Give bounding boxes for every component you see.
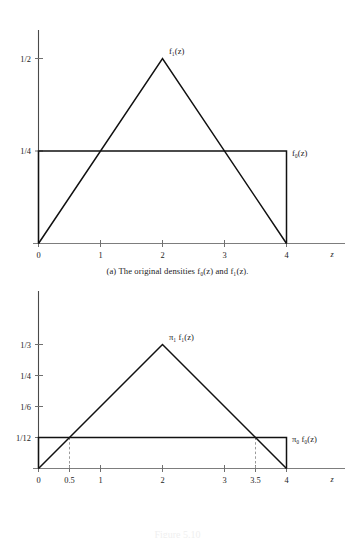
x-tick-label-b-5: 3.5: [250, 476, 260, 485]
y-tick-label-b-2: 1/6: [20, 403, 31, 412]
x-tick-label-a-4: 4: [284, 251, 289, 260]
curve-label-f0-a: f₀(z): [292, 148, 308, 158]
x-tick-label-a-1: 1: [98, 251, 102, 260]
curve-label-pi1f1-b: π₁ f₁(z): [169, 332, 194, 342]
plot-a-svg: 1/2 1/4 0 1 2 3 4 z f₁(z) f₀(z): [0, 0, 355, 266]
y-tick-label-a-1: 1/4: [20, 147, 32, 156]
x-tick-label-b-3: 2: [160, 476, 164, 485]
x-axis-label-b: z: [329, 475, 334, 484]
series-pi0f0-b: [39, 438, 287, 469]
chart-panel-b: 1/3 1/4 1/6 1/12 0 0.5 1 2 3 3.5 4 z: [0, 285, 355, 538]
plot-b-svg: 1/3 1/4 1/6 1/12 0 0.5 1 2 3 3.5 4 z: [0, 285, 355, 501]
figure-root: 1/2 1/4 0 1 2 3 4 z f₁(z) f₀(z) (a) The …: [0, 0, 355, 538]
y-tick-label-a-0: 1/2: [20, 55, 31, 64]
y-tick-label-b-0: 1/3: [20, 341, 31, 350]
y-tick-label-b-3: 1/12: [16, 434, 31, 443]
x-tick-label-b-0: 0: [36, 476, 40, 485]
x-tick-label-a-2: 2: [160, 251, 164, 260]
x-tick-label-b-6: 4: [284, 476, 289, 485]
figure-caption-clipped: Figure 5.10: [0, 529, 355, 538]
series-f0-a: [39, 151, 287, 244]
x-tick-label-b-1: 0.5: [64, 476, 74, 485]
x-tick-label-b-4: 3: [222, 476, 226, 485]
curve-label-pi0f0-b: π₀ f₀(z): [292, 434, 317, 444]
chart-panel-a: 1/2 1/4 0 1 2 3 4 z f₁(z) f₀(z) (a) The …: [0, 0, 355, 285]
series-pi1f1-b: [39, 345, 287, 469]
x-tick-label-a-3: 3: [222, 251, 226, 260]
panel-a-caption: (a) The original densities f₀(z) and f₁(…: [0, 266, 355, 276]
x-axis-label-a: z: [329, 250, 334, 259]
curve-label-f1-a: f₁(z): [169, 46, 185, 56]
y-tick-label-b-1: 1/4: [20, 372, 32, 381]
x-tick-label-a-0: 0: [36, 251, 40, 260]
x-tick-label-b-2: 1: [98, 476, 102, 485]
